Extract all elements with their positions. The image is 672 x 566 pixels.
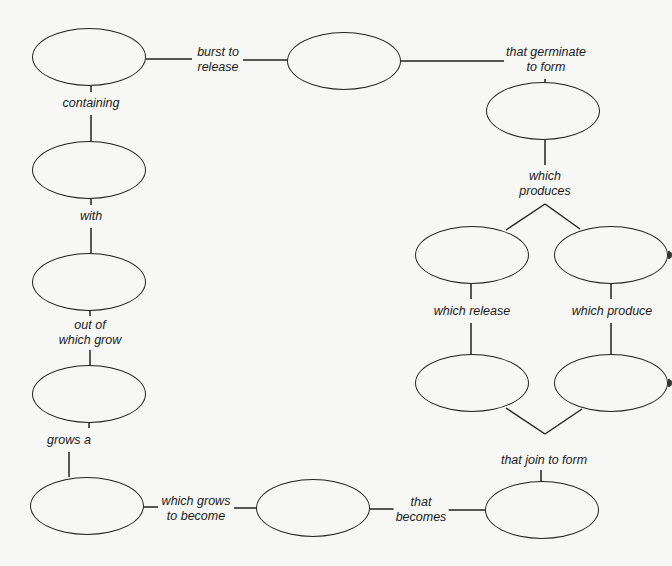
link-label-grows-a: grows a — [45, 433, 93, 448]
link-label-that-join-to-form: that join to form — [499, 453, 589, 468]
link-label-out-of-which-grow: out of which grow — [57, 318, 124, 348]
link-label-which-grows-to-become: which grows to become — [160, 494, 233, 524]
concept-node-8[interactable] — [554, 226, 668, 284]
concept-node-10[interactable] — [554, 354, 668, 412]
concept-node-5[interactable] — [32, 253, 146, 311]
link-label-which-release: which release — [432, 304, 512, 319]
link-label-with: with — [78, 209, 104, 224]
concept-node-2[interactable] — [287, 32, 401, 90]
concept-node-4[interactable] — [32, 141, 146, 199]
concept-node-13[interactable] — [485, 481, 599, 539]
link-label-which-produces: which produces — [517, 169, 572, 199]
concept-node-6[interactable] — [32, 365, 146, 423]
link-label-which-produce: which produce — [570, 304, 655, 319]
concept-node-9[interactable] — [415, 354, 529, 412]
link-label-that-becomes: that becomes — [394, 495, 449, 525]
link-label-burst-to-release: burst to release — [195, 45, 241, 75]
concept-node-12[interactable] — [256, 479, 370, 537]
concept-node-11[interactable] — [30, 477, 144, 535]
link-label-containing: containing — [61, 96, 122, 111]
concept-node-7[interactable] — [415, 226, 529, 284]
concept-node-1[interactable] — [32, 28, 146, 86]
concept-node-3[interactable] — [486, 82, 600, 140]
link-label-that-germinate: that germinate to form — [504, 45, 588, 75]
concept-map: burst to release that germinate to form … — [0, 0, 672, 566]
